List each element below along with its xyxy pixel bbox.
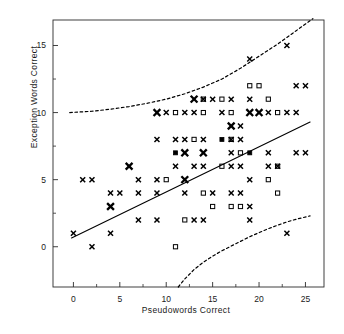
data-point-cross [192,110,197,115]
data-point-cross [181,149,188,156]
data-point-cross [154,109,161,116]
data-point-square [276,191,280,195]
data-point-cross [71,231,76,236]
data-point-cross [284,110,289,115]
data-point-cross [238,137,243,142]
data-point-cross [247,56,252,61]
data-point-cross [247,177,252,182]
data-point-cross [136,177,141,182]
data-point-cross [229,191,234,196]
plot-frame [53,20,324,287]
data-point-cross [256,109,263,116]
data-point-square [257,84,261,88]
data-point-square [276,110,280,114]
data-point-cross [201,217,206,222]
data-point-cross [229,97,234,102]
data-point-cross [210,97,215,102]
scatter-plot-figure: Exception Words Correct Pseudowords Corr… [0,0,344,334]
data-point-cross [136,191,141,196]
data-point-cross [266,150,271,155]
data-point-cross [182,191,187,196]
data-point-cross [173,164,178,169]
y-tick-label: 0 [24,242,46,252]
data-point-cross [247,97,252,102]
x-tick-label: 10 [155,294,177,304]
data-point-cross [247,217,252,222]
data-point-cross [117,191,122,196]
x-tick-label: 0 [62,294,84,304]
data-point-cross [201,137,206,142]
upper-confidence-band [70,19,313,113]
data-point-cross [136,217,141,222]
x-tick-label: 20 [248,294,270,304]
data-point-cross [238,123,243,128]
data-point-cross [108,191,113,196]
data-point-square [220,97,224,101]
data-point-square [183,218,187,222]
data-point-cross [238,191,243,196]
y-tick-label: 5 [24,175,46,185]
y-tick-label: 15 [24,40,46,50]
data-point-cross [154,137,159,142]
data-point-cross [192,164,197,169]
data-point-cross [210,191,215,196]
data-point-cross [229,150,234,155]
y-tick-label: 10 [24,108,46,118]
data-point-square [229,204,233,208]
data-point-cross [219,110,224,115]
data-point-square [192,137,196,141]
data-point-cross [182,110,187,115]
regression-line [72,122,311,238]
data-point-cross [173,137,178,142]
data-point-cross [229,164,234,169]
x-tick-label: 25 [294,294,316,304]
data-point-square [211,204,215,208]
data-point-cross [284,43,289,48]
data-point-cross [284,231,289,236]
lower-confidence-band [178,216,310,287]
x-tick-label: 15 [202,294,224,304]
data-point-square [173,110,177,114]
data-point-cross [80,177,85,182]
data-point-square [266,178,270,182]
data-point-cross [191,96,198,103]
data-point-cross [154,191,159,196]
data-point-cross [164,110,169,115]
data-point-square [238,151,242,155]
data-point-cross [108,231,113,236]
data-point-square [248,84,252,88]
data-point-square [201,191,205,195]
data-point-cross [154,217,159,222]
data-point-square [229,110,233,114]
data-point-square [220,137,224,141]
data-point-cross [294,83,299,88]
data-point-square [174,151,178,155]
data-point-square [248,151,252,155]
data-point-cross [228,123,235,130]
data-point-cross [181,176,188,183]
data-point-square [164,178,168,182]
data-point-cross [294,150,299,155]
data-point-cross [192,217,197,222]
data-point-square [266,97,270,101]
data-point-cross [154,177,159,182]
data-point-cross [266,164,271,169]
data-point-cross [247,204,252,209]
x-axis-title: Pseudowords Correct [60,305,312,315]
data-point-cross [238,164,243,169]
data-point-cross [89,244,94,249]
data-point-square [173,245,177,249]
data-point-cross [303,150,308,155]
data-point-cross [107,203,114,210]
data-point-cross [126,163,133,170]
data-point-cross [266,110,271,115]
data-point-square [238,204,242,208]
data-point-cross [200,149,207,156]
data-point-square [201,110,205,114]
data-point-cross [182,137,187,142]
plot-canvas [0,0,344,334]
data-point-cross [201,164,206,169]
data-point-cross [89,177,94,182]
x-tick-label: 5 [109,294,131,304]
data-point-cross [294,110,299,115]
